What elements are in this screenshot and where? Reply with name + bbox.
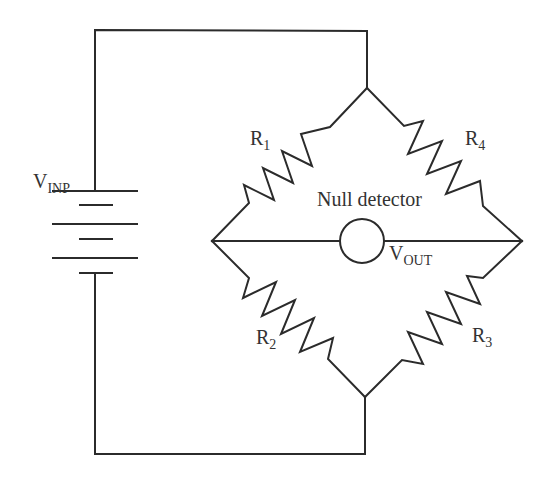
label-v-out: VOUT	[389, 242, 433, 268]
label-r1: R1	[250, 127, 270, 153]
bottom-wire	[95, 273, 365, 454]
resistor-r4-icon	[367, 88, 522, 241]
label-r4: R4	[465, 127, 485, 153]
label-r3: R3	[472, 324, 492, 350]
null-detector-icon	[340, 219, 384, 263]
top-wire	[95, 30, 367, 191]
circuit-diagram: VINP R1 R4 R2 R3 Null detector VOUT	[0, 0, 550, 477]
resistor-r1-icon	[212, 88, 367, 241]
label-null-detector: Null detector	[317, 188, 422, 210]
resistor-r2-icon	[212, 241, 365, 397]
label-r2: R2	[256, 326, 276, 352]
resistor-r3-icon	[365, 241, 522, 397]
label-v-inp: VINP	[33, 170, 70, 196]
battery-icon	[53, 191, 137, 273]
